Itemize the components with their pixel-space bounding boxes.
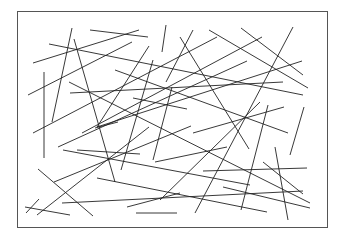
random-lines-diagram bbox=[0, 0, 345, 237]
